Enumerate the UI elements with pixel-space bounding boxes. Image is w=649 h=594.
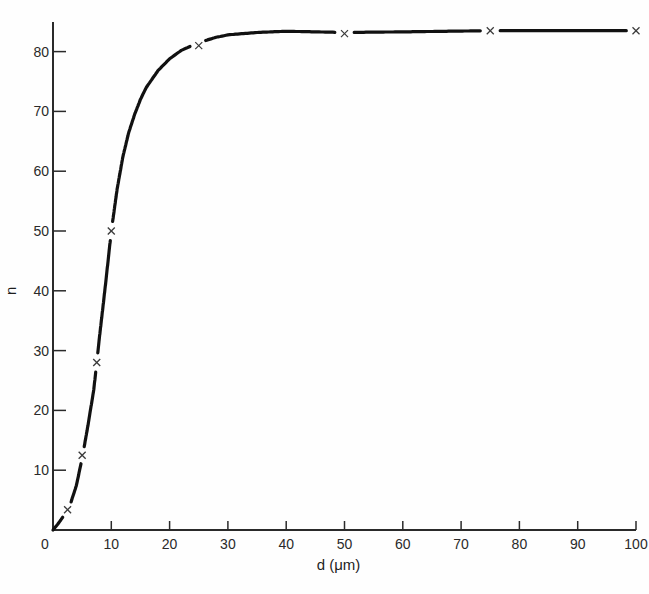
x-tick-label: 20 [162,536,178,552]
curve-segment [113,47,190,222]
y-tick-label: 10 [33,462,49,478]
y-tick-label: 80 [33,44,49,60]
x-tick-label: 40 [278,536,294,552]
curve-segment [98,241,111,353]
curve-segment [206,31,335,40]
x-tick-label: 60 [395,536,411,552]
data-markers [64,27,639,513]
x-marker-icon [64,506,71,513]
x-marker-icon [79,452,86,459]
y-tick-label: 60 [33,163,49,179]
x-tick-label: 90 [570,536,586,552]
x-marker-icon [108,228,115,235]
x-tick-label: 70 [453,536,469,552]
x-tick-label: 30 [220,536,236,552]
x-marker-icon [195,42,202,49]
curve-segment [71,464,81,502]
curve-segment [354,31,480,33]
chart: 01020304050607080901001020304050607080 d… [0,0,649,594]
curve-segment [53,517,63,530]
x-tick-label: 0 [41,536,49,552]
x-tick-label: 100 [624,536,648,552]
x-tick-label: 80 [512,536,528,552]
y-tick-label: 70 [33,103,49,119]
y-tick-label: 20 [33,402,49,418]
data-curve [53,31,626,530]
y-tick-label: 40 [33,283,49,299]
x-marker-icon [93,359,100,366]
y-axis-title: n [2,287,19,295]
y-tick-label: 50 [33,223,49,239]
axes: 01020304050607080901001020304050607080 [33,22,647,552]
x-marker-icon [341,30,348,37]
x-tick-label: 50 [337,536,353,552]
x-axis-title: d (μm) [317,556,361,573]
x-marker-icon [633,27,640,34]
x-tick-label: 10 [104,536,120,552]
curve-segment [84,372,96,446]
x-marker-icon [487,27,494,34]
chart-canvas: 01020304050607080901001020304050607080 d… [0,0,649,594]
y-tick-label: 30 [33,343,49,359]
